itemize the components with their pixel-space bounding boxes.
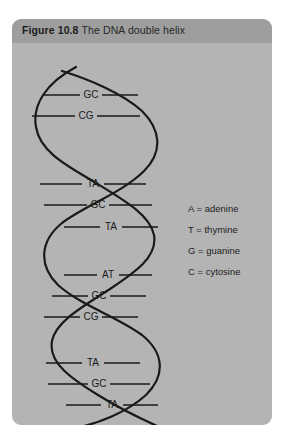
base-pair-label: GC [92,290,107,301]
base-pair-label: CG [84,311,99,322]
dna-double-helix-diagram: GCCGTAGCTAATGCCGTAGCTAAT [18,43,193,425]
figure-caption: Figure 10.8 The DNA double helix [22,23,185,38]
legend-item-cytosine: C = cytosine [188,266,272,287]
base-pair-label: CG [79,110,94,121]
legend-item-thymine: T = thymine [188,224,272,245]
base-pair-rungs: GCCGTAGCTAATGCCGTAGCTAAT [32,89,164,425]
figure-caption-title: The DNA double helix [82,24,186,36]
figure-panel: Figure 10.8 The DNA double helix GCCGTAG… [12,19,272,425]
legend: A = adenineT = thymineG = guanineC = cyt… [188,203,272,287]
dna-strand-secondary [44,71,160,425]
base-pair-label: GC [84,89,99,100]
figure-number-label: Figure 10.8 [22,24,79,36]
base-pair-label: TA [105,221,117,232]
base-pair-label: GC [91,199,106,210]
dna-strand-primary [35,67,164,425]
legend-item-adenine: A = adenine [188,203,272,224]
base-pair-label: GC [92,378,107,389]
figure-body: GCCGTAGCTAATGCCGTAGCTAAT A = adenineT = … [12,43,272,425]
base-pair-label: TA [106,399,118,410]
base-pair-label: TA [87,178,99,189]
base-pair-label: TA [87,357,99,368]
legend-item-guanine: G = guanine [188,245,272,266]
base-pair-label: AT [102,269,114,280]
